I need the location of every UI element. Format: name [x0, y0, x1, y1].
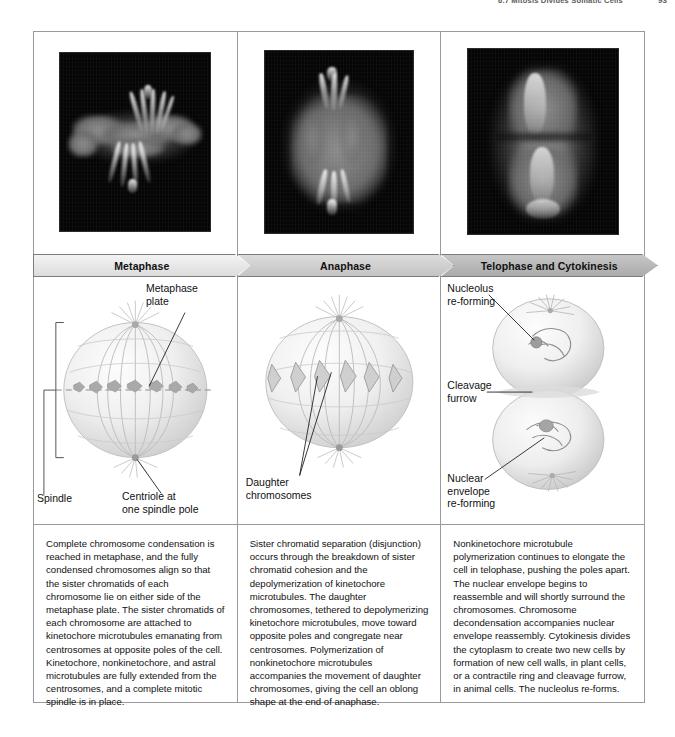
mitosis-figure: Metaphase	[33, 31, 645, 703]
nucleolus-label: Nucleolus re-forming	[447, 282, 495, 307]
banner-container-anaphase: Anaphase	[238, 251, 441, 280]
metaphase-spindle-micrograph	[60, 53, 210, 231]
banner-container-metaphase: Metaphase	[34, 251, 237, 280]
caption-telophase: Nonkinetochore microtubule polymerizatio…	[441, 524, 644, 702]
micrograph-container-anaphase	[238, 32, 441, 251]
phase-column-telophase: Telophase and Cytokinesis	[441, 32, 644, 702]
phase-column-anaphase: Anaphase	[238, 32, 442, 702]
running-head: 6.7 Mitosis Divides Somatic Cells 93	[0, 0, 675, 6]
metaphase-cell-diagram: Metaphase plate Centriole at one spindle…	[34, 280, 237, 524]
phase-banner-anaphase: Anaphase	[237, 254, 455, 277]
spindle-label: Spindle	[37, 492, 72, 505]
phase-columns: Metaphase	[34, 32, 644, 702]
cleavage-furrow-label: Cleavage furrow	[447, 379, 491, 404]
telophase-cell-diagram: Nucleolus re-forming Cleavage furrow Nuc…	[441, 280, 644, 524]
phase-banner-label-telophase: Telophase and Cytokinesis	[481, 260, 618, 272]
caption-anaphase: Sister chromatid separation (disjunction…	[238, 524, 441, 702]
nuclear-envelope-label: Nuclear envelope re-forming	[447, 472, 495, 510]
telophase-cytokinesis-micrograph	[468, 49, 618, 234]
phase-banner-telophase: Telophase and Cytokinesis	[440, 254, 658, 277]
micrograph-container-metaphase	[34, 32, 237, 251]
phase-banner-label-anaphase: Anaphase	[320, 260, 371, 272]
phase-banner-label-metaphase: Metaphase	[114, 260, 169, 272]
phase-column-metaphase: Metaphase	[34, 32, 238, 702]
caption-text-telophase: Nonkinetochore microtubule polymerizatio…	[453, 537, 633, 695]
phase-banner-metaphase: Metaphase	[33, 254, 251, 277]
caption-text-anaphase: Sister chromatid separation (disjunction…	[250, 537, 430, 709]
anaphase-cell-diagram: Daughter chromosomes	[238, 280, 441, 524]
running-head-title: 6.7 Mitosis Divides Somatic Cells	[498, 0, 623, 5]
centriole-label: Centriole at one spindle pole	[122, 490, 198, 515]
banner-container-telophase: Telophase and Cytokinesis	[441, 251, 644, 280]
caption-metaphase: Complete chromosome condensation is reac…	[34, 524, 237, 702]
page-number: 93	[658, 0, 667, 5]
daughter-chromosomes-label: Daughter chromosomes	[246, 476, 312, 501]
micrograph-container-telophase	[441, 32, 644, 251]
caption-text-metaphase: Complete chromosome condensation is reac…	[46, 537, 226, 709]
anaphase-spindle-micrograph	[265, 51, 413, 233]
metaphase-plate-label: Metaphase plate	[146, 282, 198, 307]
